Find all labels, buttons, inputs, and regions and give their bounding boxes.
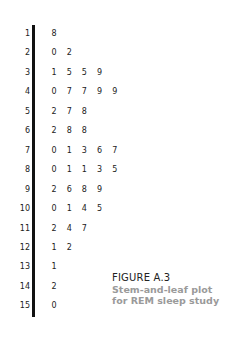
leaf-value: 1 <box>49 262 59 272</box>
leaf-value: 0 <box>49 146 59 156</box>
leaf-value: 8 <box>49 29 59 39</box>
leaf-value: 1 <box>49 68 59 78</box>
caption-title: FIGURE A.3 <box>112 272 219 284</box>
leaf-value: 2 <box>64 243 74 253</box>
leaf-value: 7 <box>64 87 74 97</box>
leaf-value: 1 <box>64 146 74 156</box>
leaf-value: 2 <box>49 282 59 292</box>
stem-value: 9 <box>2 185 30 195</box>
leaf-value: 1 <box>79 165 89 175</box>
stem-divider-line <box>32 25 35 317</box>
stem-value: 3 <box>2 68 30 78</box>
leaf-value: 2 <box>49 107 59 117</box>
leaf-value: 9 <box>95 87 105 97</box>
leaf-value: 2 <box>64 48 74 58</box>
stem-value: 4 <box>2 87 30 97</box>
stem-value: 8 <box>2 165 30 175</box>
leaf-value: 9 <box>95 185 105 195</box>
leaf-value: 5 <box>110 165 120 175</box>
leaf-value: 0 <box>49 165 59 175</box>
stem-value: 12 <box>2 243 30 253</box>
stem-value: 11 <box>2 224 30 234</box>
leaf-value: 2 <box>49 224 59 234</box>
leaf-value: 0 <box>49 48 59 58</box>
leaf-value: 8 <box>79 107 89 117</box>
stem-and-leaf-plot: 1820231559407799527862887013678011359268… <box>0 0 228 341</box>
leaf-value: 7 <box>64 107 74 117</box>
stem-value: 10 <box>2 204 30 214</box>
stem-value: 5 <box>2 107 30 117</box>
figure-caption: FIGURE A.3 Stem-and-leaf plot for REM sl… <box>112 272 219 306</box>
leaf-value: 7 <box>79 224 89 234</box>
leaf-value: 9 <box>110 87 120 97</box>
leaf-value: 3 <box>95 165 105 175</box>
leaf-value: 0 <box>49 204 59 214</box>
leaf-value: 8 <box>79 185 89 195</box>
leaf-value: 0 <box>49 87 59 97</box>
caption-line-1: Stem-and-leaf plot <box>112 284 219 295</box>
stem-value: 1 <box>2 29 30 39</box>
leaf-value: 8 <box>79 126 89 136</box>
stem-value: 15 <box>2 301 30 311</box>
leaf-value: 0 <box>49 301 59 311</box>
leaf-value: 4 <box>64 224 74 234</box>
leaf-value: 5 <box>64 68 74 78</box>
leaf-value: 2 <box>49 126 59 136</box>
stem-value: 2 <box>2 48 30 58</box>
leaf-value: 5 <box>95 204 105 214</box>
leaf-value: 7 <box>110 146 120 156</box>
leaf-value: 6 <box>64 185 74 195</box>
leaf-value: 7 <box>79 87 89 97</box>
caption-line-2: for REM sleep study <box>112 295 219 306</box>
stem-value: 7 <box>2 146 30 156</box>
leaf-value: 6 <box>95 146 105 156</box>
leaf-value: 3 <box>79 146 89 156</box>
leaf-value: 1 <box>64 204 74 214</box>
leaf-value: 5 <box>79 68 89 78</box>
leaf-value: 8 <box>64 126 74 136</box>
leaf-value: 9 <box>95 68 105 78</box>
leaf-value: 1 <box>64 165 74 175</box>
stem-value: 14 <box>2 282 30 292</box>
leaf-value: 4 <box>79 204 89 214</box>
leaf-value: 2 <box>49 185 59 195</box>
leaf-value: 1 <box>49 243 59 253</box>
stem-value: 6 <box>2 126 30 136</box>
stem-value: 13 <box>2 262 30 272</box>
